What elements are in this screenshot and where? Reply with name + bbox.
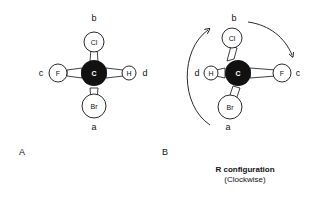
atom-f-label: F xyxy=(56,70,60,77)
atom-c-label: C xyxy=(235,70,240,77)
priority-d: d xyxy=(194,68,199,78)
priority-a: a xyxy=(91,122,96,132)
atom-h-label: H xyxy=(126,70,131,77)
molecule-a: Cl Br F H C b c d a xyxy=(39,13,148,132)
priority-c: c xyxy=(39,68,44,78)
atom-c-label: C xyxy=(91,70,96,77)
atom-cl-label: Cl xyxy=(229,35,236,42)
configuration-subtitle: (Clockwise) xyxy=(190,175,300,185)
bond-f xyxy=(67,68,82,78)
molecule-b: Cl Br H F C b d c a xyxy=(187,13,301,132)
arrow-b-to-c-icon xyxy=(248,22,292,55)
priority-b: b xyxy=(91,13,96,23)
configuration-title: R configuration xyxy=(190,165,300,175)
bond-f xyxy=(250,68,276,78)
priority-c: c xyxy=(296,68,301,78)
priority-d: d xyxy=(142,68,147,78)
bond-h xyxy=(106,68,123,78)
priority-b: b xyxy=(231,13,236,23)
atom-f-label: F xyxy=(280,70,284,77)
panel-label-b: B xyxy=(162,147,168,157)
panel-label-a: A xyxy=(19,147,25,157)
atom-br-label: Br xyxy=(91,103,99,110)
atom-br-label: Br xyxy=(227,104,235,111)
atom-h-label: H xyxy=(208,70,213,77)
atom-cl-label: Cl xyxy=(91,39,98,46)
priority-a: a xyxy=(225,122,230,132)
